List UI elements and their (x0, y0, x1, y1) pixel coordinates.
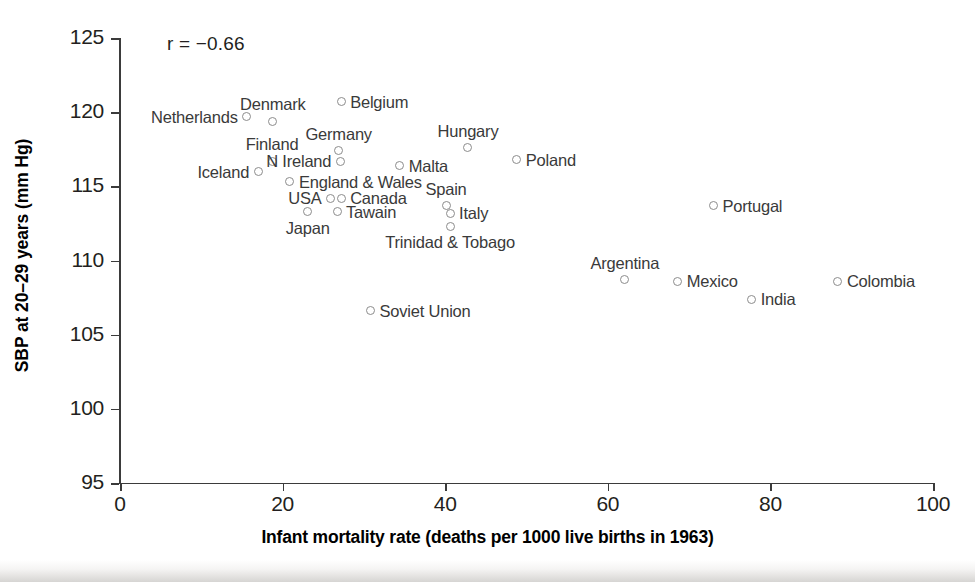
x-tick-40 (445, 483, 447, 491)
point-label: Mexico (687, 273, 738, 290)
point-label: Portugal (722, 197, 782, 214)
x-tick-20 (283, 483, 285, 491)
data-point (512, 155, 521, 164)
point-label: India (761, 291, 796, 308)
point-label: Poland (526, 151, 576, 168)
data-point (709, 201, 718, 210)
point-label: Tawain (346, 203, 396, 220)
data-point (747, 295, 756, 304)
point-label: Hungary (437, 122, 498, 139)
y-axis-title: SBP at 20–29 years (mm Hg) (12, 6, 33, 506)
y-tick-95 (111, 483, 119, 485)
point-label: Iceland (197, 163, 249, 180)
point-label: USA (288, 190, 321, 207)
data-point (673, 277, 682, 286)
data-point (285, 177, 294, 186)
point-label: Netherlands (151, 108, 238, 125)
x-tick-label-100: 100 (898, 492, 968, 516)
point-label: Belgium (350, 94, 408, 111)
y-tick-125 (111, 38, 119, 40)
y-tick-120 (111, 112, 119, 114)
x-axis-title: Infant mortality rate (deaths per 1000 l… (0, 527, 975, 548)
point-label: Trinidad & Tobago (385, 234, 515, 251)
data-point (337, 194, 346, 203)
x-tick-label-0: 0 (85, 492, 155, 516)
y-tick-100 (111, 409, 119, 411)
x-tick-label-60: 60 (573, 492, 643, 516)
data-point (242, 112, 251, 121)
point-label: Japan (286, 220, 330, 237)
data-point (446, 222, 455, 231)
point-label: Italy (459, 205, 488, 222)
x-tick-100 (933, 483, 935, 491)
point-label: N Ireland (266, 153, 331, 170)
y-tick-label-120: 120 (48, 99, 104, 123)
data-point (620, 275, 629, 284)
point-label: Germany (305, 125, 371, 142)
x-tick-80 (770, 483, 772, 491)
point-label: Finland (246, 136, 299, 153)
point-label: Malta (409, 157, 448, 174)
point-label: Argentina (590, 254, 659, 271)
point-label: Colombia (847, 273, 915, 290)
y-tick-label-115: 115 (48, 173, 104, 197)
data-point (303, 207, 312, 216)
plot-area: NetherlandsDenmarkBelgiumFinlandIcelandG… (120, 38, 933, 483)
y-tick-115 (111, 186, 119, 188)
y-tick-110 (111, 261, 119, 263)
x-tick-label-80: 80 (735, 492, 805, 516)
y-tick-label-105: 105 (48, 322, 104, 346)
point-label: Spain (425, 180, 466, 197)
y-tick-label-110: 110 (48, 248, 104, 272)
x-tick-label-20: 20 (248, 492, 318, 516)
scan-edge-artifact (0, 560, 975, 582)
point-label: Soviet Union (379, 303, 470, 320)
data-point (326, 194, 335, 203)
x-tick-60 (608, 483, 610, 491)
y-tick-label-125: 125 (48, 25, 104, 49)
data-point (334, 146, 343, 155)
data-point (463, 143, 472, 152)
data-point (268, 117, 277, 126)
y-tick-label-95: 95 (48, 470, 104, 494)
point-label: Denmark (240, 96, 306, 113)
x-tick-0 (120, 483, 122, 491)
x-tick-label-40: 40 (410, 492, 480, 516)
y-tick-label-100: 100 (48, 396, 104, 420)
data-point (395, 161, 404, 170)
scatter-plot-figure: 95100105110115120125 020406080100 SBP at… (0, 0, 975, 582)
data-point (366, 306, 375, 315)
point-label: England & Wales (299, 174, 422, 191)
data-point (254, 167, 263, 176)
data-point (336, 157, 345, 166)
data-point (833, 277, 842, 286)
y-tick-105 (111, 335, 119, 337)
data-point (337, 97, 346, 106)
data-point (333, 207, 342, 216)
data-point (446, 209, 455, 218)
